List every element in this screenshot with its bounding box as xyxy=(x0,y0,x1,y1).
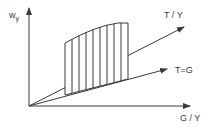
upper-line-label: T / Y xyxy=(164,10,183,20)
lower-line-label: T=G xyxy=(175,65,193,75)
hatched-region xyxy=(65,23,128,95)
y-axis-label: wy xyxy=(8,10,20,23)
diagram: wy T / Y T=G G / Y xyxy=(0,0,211,128)
x-axis-label: G / Y xyxy=(180,113,200,123)
